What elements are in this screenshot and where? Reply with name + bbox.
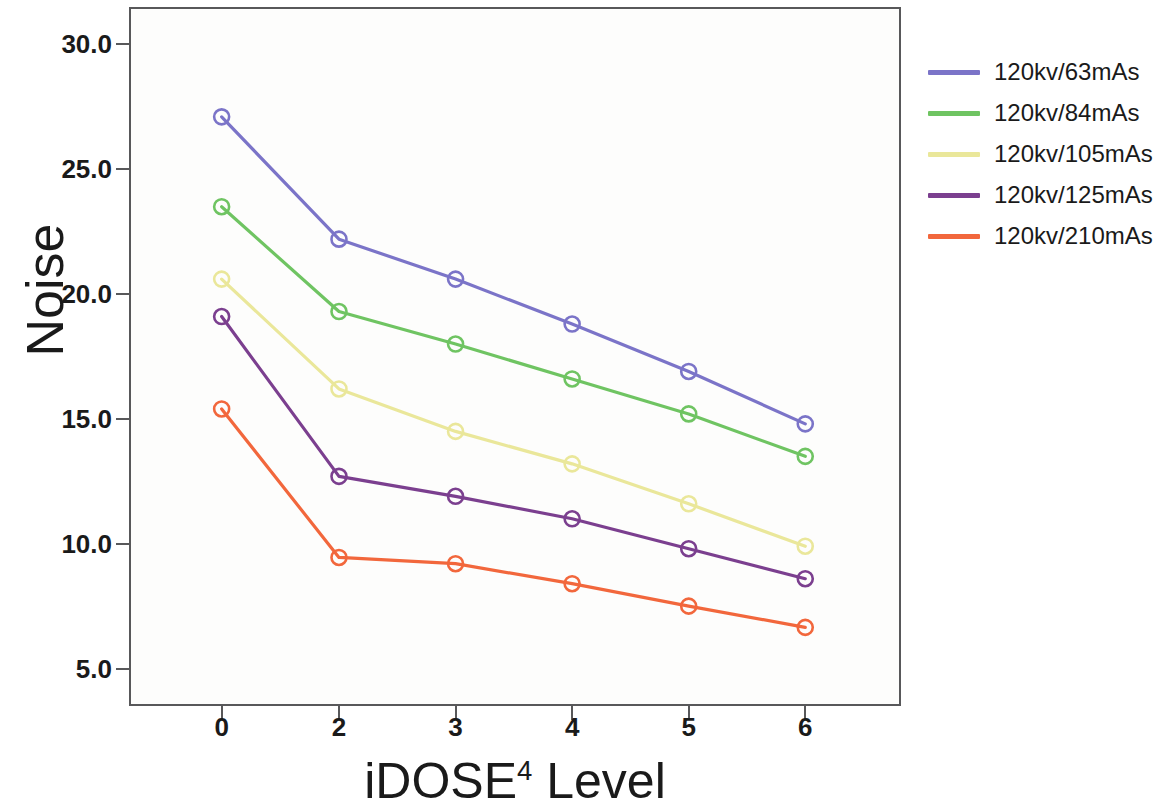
x-axis-title: iDOSE4 Level <box>129 752 901 809</box>
y-tick-label: 20.0 <box>22 279 112 310</box>
x-tick-label: 2 <box>309 712 369 743</box>
legend-item: 120kv/84mAs <box>928 93 1138 133</box>
y-axis-ticks: 5.010.015.020.025.030.0 <box>0 0 112 809</box>
legend-swatch-icon <box>928 193 980 198</box>
x-tick-label: 5 <box>659 712 719 743</box>
legend-label: 120kv/84mAs <box>994 99 1139 127</box>
y-tick-mark <box>116 668 130 670</box>
y-tick-mark <box>116 293 130 295</box>
legend-swatch-icon <box>928 70 980 75</box>
legend-label: 120kv/125mAs <box>994 181 1153 209</box>
y-tick-label: 15.0 <box>22 403 112 434</box>
series-4 <box>214 401 813 634</box>
x-tick-label: 4 <box>542 712 602 743</box>
legend-swatch-icon <box>928 152 980 157</box>
legend-label: 120kv/63mAs <box>994 58 1139 86</box>
x-tick-label: 0 <box>192 712 252 743</box>
series-line <box>222 117 806 424</box>
y-tick-label: 30.0 <box>22 29 112 60</box>
legend: 120kv/63mAs120kv/84mAs120kv/105mAs120kv/… <box>928 52 1138 257</box>
x-tick-label: 6 <box>775 712 835 743</box>
y-tick-mark <box>116 543 130 545</box>
x-axis-title-base: iDOSE <box>364 753 517 809</box>
y-tick-mark <box>116 43 130 45</box>
legend-item: 120kv/210mAs <box>928 216 1138 256</box>
legend-label: 120kv/210mAs <box>994 222 1153 250</box>
x-axis-title-superscript: 4 <box>517 755 532 786</box>
legend-swatch-icon <box>928 111 980 116</box>
y-tick-label: 25.0 <box>22 154 112 185</box>
series-line <box>222 207 806 457</box>
legend-swatch-icon <box>928 234 980 239</box>
plot-lines <box>129 7 901 706</box>
series-line <box>222 409 806 627</box>
series-0 <box>214 109 813 431</box>
y-tick-label: 5.0 <box>22 653 112 684</box>
y-tick-mark <box>116 168 130 170</box>
x-axis-title-tail: Level <box>532 753 665 809</box>
series-1 <box>214 199 813 464</box>
y-tick-label: 10.0 <box>22 528 112 559</box>
legend-label: 120kv/105mAs <box>994 140 1153 168</box>
legend-item: 120kv/105mAs <box>928 134 1138 174</box>
y-tick-mark <box>116 418 130 420</box>
legend-item: 120kv/63mAs <box>928 52 1138 92</box>
x-tick-label: 3 <box>426 712 486 743</box>
legend-item: 120kv/125mAs <box>928 175 1138 215</box>
